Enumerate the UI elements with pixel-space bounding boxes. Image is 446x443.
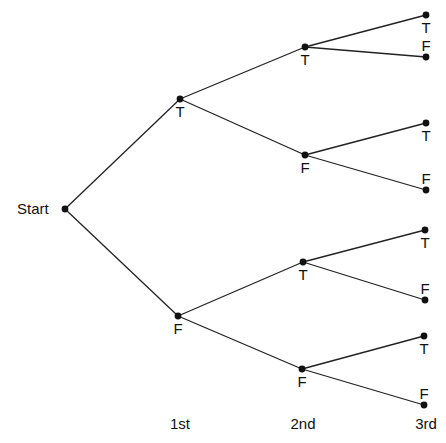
- node-label-true: T: [421, 20, 430, 35]
- tree-edge: [305, 155, 426, 190]
- start-node-dot: [62, 206, 69, 213]
- tree-node-dot: [422, 227, 429, 234]
- node-label-true: T: [300, 52, 309, 67]
- tree-edge: [303, 262, 425, 300]
- tree-edges: [65, 15, 426, 405]
- tree-node-dot: [175, 313, 182, 320]
- tree-node-dot: [177, 96, 184, 103]
- node-label-false: F: [420, 281, 429, 296]
- tree-edge: [305, 15, 426, 47]
- level-label-3rd: 3rd: [415, 416, 437, 431]
- level-label-2nd: 2nd: [290, 416, 315, 431]
- tree-node-dot: [299, 366, 306, 373]
- node-label-false: F: [421, 171, 430, 186]
- tree-edge: [305, 123, 426, 155]
- node-label-false: F: [300, 160, 309, 175]
- node-label-false: F: [419, 386, 428, 401]
- node-label-true: T: [298, 267, 307, 282]
- node-label-false: F: [421, 38, 430, 53]
- start-label: Start: [17, 201, 49, 216]
- tree-node-dot: [423, 187, 430, 194]
- node-label-false: F: [297, 374, 306, 389]
- tree-edge: [65, 99, 180, 209]
- node-label-true: T: [419, 341, 428, 356]
- tree-edge: [302, 369, 424, 405]
- tree-node-dot: [421, 333, 428, 340]
- tree-edge: [302, 336, 424, 369]
- tree-node-dot: [421, 402, 428, 409]
- tree-node-dot: [422, 297, 429, 304]
- tree-edge: [303, 230, 425, 262]
- tree-edge: [180, 99, 305, 155]
- tree-node-dot: [423, 12, 430, 19]
- node-label-true: T: [421, 128, 430, 143]
- node-label-false: F: [173, 321, 182, 336]
- node-label-true: T: [175, 104, 184, 119]
- tree-diagram-canvas: [0, 0, 446, 443]
- tree-node-dot: [302, 44, 309, 51]
- node-label-true: T: [420, 235, 429, 250]
- tree-edge: [178, 316, 302, 369]
- tree-node-dot: [423, 120, 430, 127]
- tree-edge: [178, 262, 303, 316]
- tree-edge: [65, 209, 178, 316]
- tree-node-dot: [423, 54, 430, 61]
- level-label-1st: 1st: [170, 416, 190, 431]
- tree-edge: [180, 47, 305, 99]
- tree-node-dot: [302, 152, 309, 159]
- tree-edge: [305, 47, 426, 57]
- tree-node-dot: [300, 259, 307, 266]
